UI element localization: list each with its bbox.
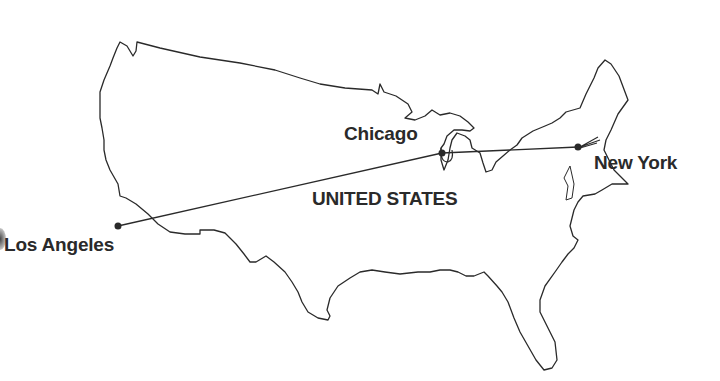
country-label: UNITED STATES <box>312 188 458 210</box>
chesapeake-outline <box>564 166 574 200</box>
route-chicago-newyork <box>442 147 578 153</box>
city-dot-los-angeles[interactable] <box>115 223 122 230</box>
city-label-los-angeles: Los Angeles <box>4 234 114 256</box>
city-label-new-york: New York <box>594 152 677 174</box>
long-island-outline <box>580 137 600 148</box>
city-dot-new-york[interactable] <box>575 144 582 151</box>
city-label-chicago: Chicago <box>344 123 418 145</box>
city-dot-chicago[interactable] <box>439 150 446 157</box>
